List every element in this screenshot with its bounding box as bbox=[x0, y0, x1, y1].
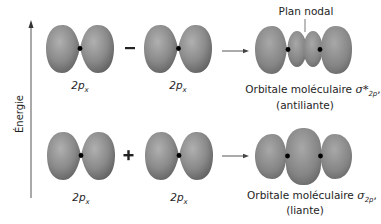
reaction-arrow-bottom bbox=[222, 154, 249, 158]
antibonding-caption: Orbitale moléculaire σ*2p, bbox=[245, 83, 380, 98]
orbital-label-2px: 2px bbox=[72, 191, 90, 206]
axis-arrowhead-icon bbox=[29, 20, 34, 28]
nucleus-dot bbox=[286, 47, 291, 52]
orbital-label-2px: 2px bbox=[170, 191, 188, 206]
nucleus-dot bbox=[285, 154, 290, 159]
minus-sign-icon bbox=[125, 47, 135, 49]
antibonding-type-label: (antiliante) bbox=[276, 99, 334, 111]
nucleus-dot bbox=[78, 46, 83, 51]
nucleus-dot bbox=[318, 47, 323, 52]
bonding-type-label: (liante) bbox=[286, 204, 324, 216]
orbital-label-2px: 2px bbox=[71, 79, 89, 94]
p-orbital-left-top bbox=[46, 25, 114, 73]
p-orbital-right-bottom bbox=[145, 132, 213, 180]
orbital-label-2px: 2px bbox=[169, 79, 187, 94]
energy-axis bbox=[29, 20, 34, 198]
plus-sign-icon bbox=[124, 150, 134, 160]
nucleus-dot bbox=[79, 153, 84, 158]
row-bonding bbox=[47, 128, 352, 185]
nodal-plane-label: Plan nodal bbox=[279, 5, 334, 17]
bonding-caption: Orbitale moléculaire σ2p, bbox=[247, 189, 377, 204]
p-orbital-left-bottom bbox=[47, 132, 115, 180]
reaction-arrow-top bbox=[222, 49, 249, 53]
p-orbital-right-top bbox=[144, 25, 212, 73]
row-antibonding bbox=[46, 19, 352, 74]
sigma-star-orbital bbox=[255, 19, 352, 74]
energy-axis-label: Énergie bbox=[14, 95, 25, 133]
sigma-orbital bbox=[255, 128, 352, 185]
nucleus-dot bbox=[318, 154, 323, 159]
nucleus-dot bbox=[177, 153, 182, 158]
nucleus-dot bbox=[176, 46, 181, 51]
